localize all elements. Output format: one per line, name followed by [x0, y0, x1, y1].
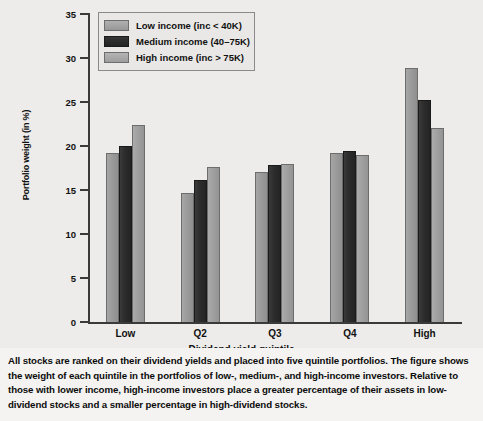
- chart-legend: Low income (inc < 40K) Medium income (40…: [98, 12, 255, 71]
- legend-swatch-high-income: [104, 52, 129, 63]
- figure-caption-text: All stocks are ranked on their dividend …: [8, 354, 475, 412]
- legend-item: High income (inc > 75K): [104, 50, 249, 65]
- bar: [255, 172, 268, 322]
- y-axis-tick-label: 20: [36, 141, 76, 152]
- x-axis-tick-label: Q4: [310, 328, 390, 339]
- bar: [106, 153, 119, 322]
- bar: [119, 146, 132, 322]
- bar: [418, 100, 431, 322]
- bar: [405, 68, 418, 322]
- legend-item: Medium income (40–75K): [104, 34, 249, 49]
- x-axis-tick-label: Low: [85, 328, 165, 339]
- bar: [268, 165, 281, 322]
- figure-caption: All stocks are ranked on their dividend …: [0, 348, 483, 421]
- y-axis-tick-label: 30: [36, 53, 76, 64]
- bar: [207, 167, 220, 322]
- y-axis-tick: [80, 189, 88, 191]
- y-axis-tick: [80, 57, 88, 59]
- y-axis-tick-label: 10: [36, 229, 76, 240]
- bar: [132, 125, 145, 322]
- bar-group: [387, 14, 462, 322]
- bar: [281, 164, 294, 322]
- y-axis-tick: [80, 13, 88, 15]
- figure-page: Portfolio weight (in %) 05101520253035 L…: [0, 0, 483, 421]
- bar: [343, 151, 356, 322]
- legend-swatch-medium-income: [104, 36, 129, 47]
- x-axis-tick-label: Q3: [235, 328, 315, 339]
- y-axis-tick-label: 5: [36, 273, 76, 284]
- y-axis-tick-label: 0: [36, 317, 76, 328]
- bar: [431, 128, 444, 322]
- bar: [330, 153, 343, 322]
- x-axis-line: [88, 322, 462, 324]
- bar-group: [312, 14, 387, 322]
- x-axis-tick-label: High: [385, 328, 465, 339]
- legend-label-medium-income: Medium income (40–75K): [136, 36, 250, 47]
- y-axis-tick: [80, 101, 88, 103]
- chart-panel: Portfolio weight (in %) 05101520253035 L…: [0, 0, 483, 348]
- y-axis-tick: [80, 321, 88, 323]
- legend-label-high-income: High income (inc > 75K): [136, 52, 244, 63]
- x-axis-tick-label: Q2: [160, 328, 240, 339]
- y-axis-title: Portfolio weight (in %): [21, 75, 31, 235]
- y-axis-tick: [80, 145, 88, 147]
- y-axis-tick-label: 25: [36, 97, 76, 108]
- legend-label-low-income: Low income (inc < 40K): [136, 20, 242, 31]
- y-axis-tick-label: 35: [36, 9, 76, 20]
- y-axis-tick: [80, 277, 88, 279]
- y-axis-tick: [80, 233, 88, 235]
- bar: [181, 193, 194, 322]
- bar: [356, 155, 369, 322]
- bar: [194, 180, 207, 322]
- y-axis-tick-label: 15: [36, 185, 76, 196]
- legend-item: Low income (inc < 40K): [104, 18, 249, 33]
- legend-swatch-low-income: [104, 20, 129, 31]
